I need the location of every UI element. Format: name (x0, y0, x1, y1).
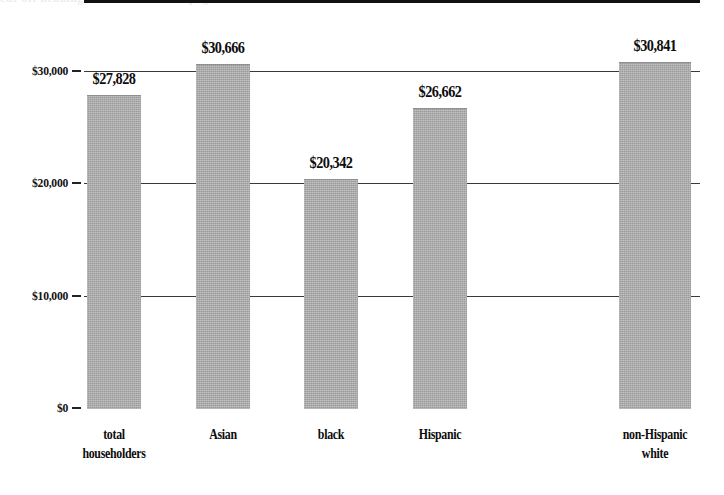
value-label-hispanic: $26,662 (381, 82, 499, 102)
category-label-line1: black (318, 427, 344, 442)
gridline-30000 (84, 71, 700, 72)
category-label-line2: householders (50, 444, 178, 463)
category-label-line1: Asian (209, 427, 237, 442)
bar-chart: cut-off heading text from scanned page a… (0, 0, 724, 495)
y-axis-label-10000: $10,000 (10, 288, 68, 304)
category-label-line1: non-Hispanic (623, 427, 688, 442)
category-label-line1: total (103, 427, 125, 442)
y-axis-label-0: $0 (10, 400, 68, 416)
bar-non-hispanic-white (619, 62, 691, 409)
gridline-10000 (84, 296, 700, 297)
bar-hispanic (413, 108, 467, 409)
y-axis-tick-0 (72, 407, 81, 409)
category-label-line2: white (591, 444, 719, 463)
value-label-non-hispanic-white: $30,841 (596, 36, 714, 56)
y-axis-tick-20000 (72, 182, 81, 184)
x-axis-label-hispanic: Hispanic (376, 425, 504, 444)
bar-asian (196, 64, 250, 409)
value-label-black: $20,342 (272, 153, 390, 173)
bar-total-householders (87, 95, 141, 409)
gridline-20000 (84, 183, 700, 184)
value-label-total-householders: $27,828 (55, 69, 173, 89)
category-label-line1: Hispanic (419, 427, 462, 442)
plot-area: $0$10,000$20,000$30,000 $27,828$30,666$2… (0, 0, 724, 495)
value-label-asian: $30,666 (164, 38, 282, 58)
y-axis-tick-10000 (72, 295, 81, 297)
x-axis-label-non-hispanic-white: non-Hispanicwhite (591, 425, 719, 463)
y-axis-label-20000: $20,000 (10, 175, 68, 191)
bar-black (304, 179, 358, 409)
x-axis-baseline (84, 0, 700, 3)
